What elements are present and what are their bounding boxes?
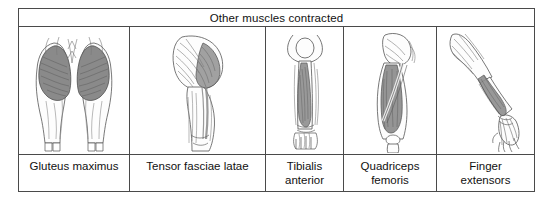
label-cell-tensor-fasciae-latae: Tensor fasciae latae xyxy=(130,155,266,191)
finger-extensors-icon xyxy=(444,29,528,153)
label-cell-gluteus-maximus: Gluteus maximus xyxy=(19,155,130,191)
illustration-cell-gluteus-maximus xyxy=(19,27,130,154)
label-cell-tibialis-anterior: Tibialis anterior xyxy=(266,155,344,191)
figure-body: Gluteus maximus Tensor fasciae latae Tib… xyxy=(19,27,534,191)
muscle-label: Tensor fasciae latae xyxy=(130,159,265,173)
label-row: Gluteus maximus Tensor fasciae latae Tib… xyxy=(19,154,534,191)
muscle-label: Tibialis anterior xyxy=(266,159,343,187)
muscle-label: Finger extensors xyxy=(437,159,534,187)
illustration-cell-quadriceps-femoris xyxy=(344,27,437,154)
tibialis-anterior-icon xyxy=(273,29,337,153)
label-cell-finger-extensors: Finger extensors xyxy=(437,155,534,191)
figure-title: Other muscles contracted xyxy=(210,12,343,24)
gluteus-shade-right xyxy=(77,45,109,100)
illustration-cell-finger-extensors xyxy=(437,27,534,154)
illustration-row xyxy=(19,27,534,154)
gluteus-shade-left xyxy=(39,45,71,100)
tensor-fasciae-latae-icon xyxy=(146,29,250,153)
muscle-label: Gluteus maximus xyxy=(19,159,129,173)
other-muscles-contracted-figure: Other muscles contracted xyxy=(18,8,535,192)
label-cell-quadriceps-femoris: Quadriceps femoris xyxy=(344,155,437,191)
illustration-cell-tensor-fasciae-latae xyxy=(130,27,266,154)
muscle-label: Quadriceps femoris xyxy=(344,159,436,187)
illustration-cell-tibialis-anterior xyxy=(266,27,344,154)
figure-header: Other muscles contracted xyxy=(19,9,534,27)
gluteus-maximus-icon xyxy=(24,29,124,153)
quadriceps-femoris-icon xyxy=(351,29,429,153)
